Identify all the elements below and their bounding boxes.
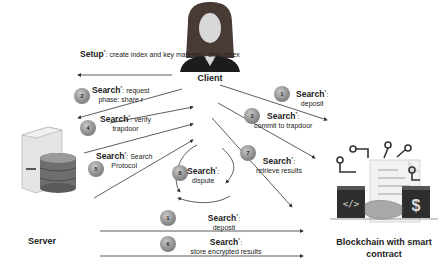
step-badge-8: 8	[172, 165, 188, 181]
step-7-label: Search*:retrieve results	[256, 155, 302, 175]
svg-text:$: $	[412, 197, 421, 214]
step-1-client-label: Search*:deposit	[296, 88, 328, 108]
step-badge-4: 4	[80, 120, 96, 136]
step-5-label: Search*: SearchProtocol	[96, 150, 152, 170]
step-badge-1-server: 1	[160, 210, 176, 226]
step-3-label: Search*:commit to trapdoor	[254, 110, 312, 130]
client-avatar-icon	[180, 2, 240, 72]
server-label: Server	[22, 236, 62, 246]
step-1-server-label: Search*:deposit	[184, 212, 264, 232]
step-setup-label: Setup*: create index and key materials, …	[80, 48, 190, 59]
client-label: Client	[185, 73, 235, 83]
svg-text:</>: </>	[343, 199, 360, 209]
server-database-icon	[22, 127, 76, 193]
step-4-label: Search*: verifytrapdoor	[100, 113, 151, 133]
step-badge-6: 6	[160, 236, 176, 252]
blockchain-label: Blockchain with smart contract	[328, 236, 440, 260]
step-6-label: Search*:store encrypted results	[176, 236, 276, 256]
step-2-label: Search*: requestphase: share r	[92, 84, 150, 104]
step-badge-7: 7	[240, 145, 256, 161]
blockchain-smart-contract-icon: </> $	[330, 142, 438, 222]
step-8-label: Search*:dispute	[187, 165, 219, 185]
step-badge-2: 2	[74, 88, 90, 104]
step-badge-1-client: 1	[274, 86, 290, 102]
